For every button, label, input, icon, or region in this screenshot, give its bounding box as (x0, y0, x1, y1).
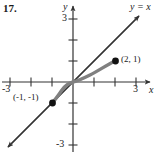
problem-number: 17. (3, 3, 17, 14)
point-label-lower-left: (-1, -1) (13, 93, 39, 102)
point-marker-upper-right (112, 58, 119, 65)
figure-panel: 17. y x y = x 3 -3 -3 3 (-1, -1) (2, 1) (0, 0, 161, 155)
tick-label-x-positive-3: 3 (133, 84, 138, 94)
tick-label-y-positive-3: 3 (62, 13, 67, 23)
y-axis-label: y (63, 2, 67, 12)
coordinate-plane (0, 0, 161, 155)
tick-label-x-negative-3: -3 (2, 84, 10, 94)
tick-label-y-negative-3: -3 (56, 139, 64, 149)
point-label-upper-right: (2, 1) (121, 55, 141, 64)
x-axis-label: x (149, 85, 153, 95)
point-marker-lower-left (49, 100, 56, 107)
line-equation-label: y = x (130, 2, 151, 12)
